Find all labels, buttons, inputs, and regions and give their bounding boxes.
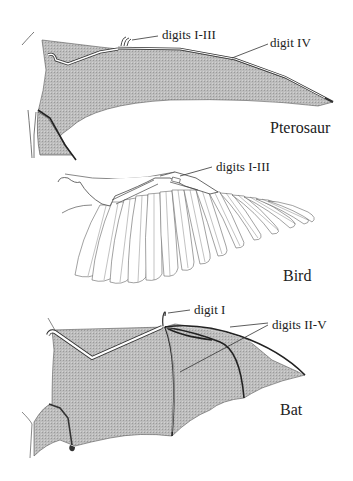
bat-wing [22, 310, 305, 458]
bird-wing [58, 167, 314, 283]
bird-digits-i-iii-label: digits I-III [216, 160, 270, 173]
bat-digit-i-label: digit I [194, 303, 225, 316]
pterosaur-wing [22, 32, 333, 160]
pterosaur-digits-i-iii-label: digits I-III [162, 28, 216, 41]
pterosaur-title: Pterosaur [270, 120, 330, 136]
bird-title: Bird [283, 268, 311, 284]
bat-title: Bat [280, 402, 302, 418]
pterosaur-digit-iv-label: digit IV [270, 36, 311, 49]
bat-digits-ii-v-label: digits II-V [272, 318, 327, 331]
